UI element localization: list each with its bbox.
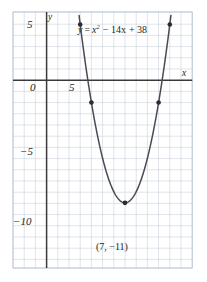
equation-exponent: 2 — [97, 23, 100, 30]
equation-annotation: y=x2− 14x+ 38 — [78, 24, 147, 35]
vertex-annotation: (7, −11) — [96, 242, 128, 252]
y-tick-label-5: 5 — [27, 19, 33, 30]
x-tick-label-5: 5 — [69, 82, 75, 93]
point-left-lower — [89, 100, 94, 105]
y-tick-label-minus5: −5 — [20, 146, 33, 157]
point-vertex — [123, 200, 128, 205]
y-axis-label: y — [48, 13, 52, 23]
equation-operator: = — [84, 24, 90, 35]
parabola-plot — [0, 0, 207, 282]
grid-lines — [13, 12, 192, 268]
equation-lhs: y — [78, 24, 82, 35]
y-tick-label-0: 0 — [30, 82, 36, 93]
x-axis-label: x — [182, 69, 186, 79]
figure-root: 5 0 −5 −10 5 y x y=x2− 14x+ 38 (7, −11) — [0, 0, 207, 282]
point-right-lower — [156, 100, 161, 105]
equation-linear-term: − 14x — [103, 24, 126, 35]
equation-constant: + 38 — [129, 24, 147, 35]
y-tick-label-minus10: −10 — [13, 216, 31, 227]
point-right-upper — [168, 22, 173, 27]
